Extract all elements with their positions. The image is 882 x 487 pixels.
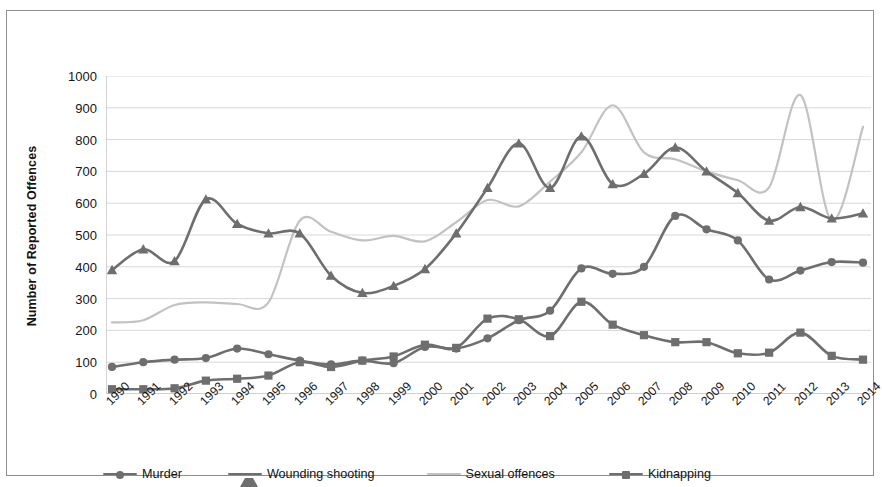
- data-point-marker: [702, 225, 710, 233]
- data-point-marker: [734, 349, 742, 357]
- y-axis-tick-label: 600: [47, 197, 97, 210]
- y-axis-tick-label: 400: [47, 261, 97, 274]
- data-point-marker: [264, 350, 272, 358]
- data-point-marker: [828, 352, 836, 360]
- data-point-marker: [233, 375, 241, 383]
- data-point-marker: [421, 341, 429, 349]
- series-line: [112, 95, 863, 323]
- y-axis-tick-label: 300: [47, 293, 97, 306]
- data-point-marker: [765, 275, 773, 283]
- series-sexual-offences: [112, 95, 863, 323]
- data-point-marker: [577, 298, 585, 306]
- data-point-marker: [202, 354, 210, 362]
- legend-marker-icon: [609, 467, 643, 481]
- data-point-marker: [796, 329, 804, 337]
- data-point-marker: [170, 356, 178, 364]
- data-point-marker: [671, 338, 679, 346]
- series-wounding-shooting: [107, 131, 868, 297]
- plot-area: [106, 76, 871, 394]
- data-point-marker: [327, 363, 335, 371]
- y-axis-tick-label: 1000: [47, 70, 97, 83]
- data-point-marker: [577, 264, 585, 272]
- series-line: [112, 214, 863, 367]
- data-point-marker: [796, 267, 804, 275]
- legend-label: Wounding shooting: [267, 467, 375, 481]
- y-axis-tick-label: 500: [47, 229, 97, 242]
- data-point-marker: [390, 352, 398, 360]
- legend-item-kidnapping[interactable]: Kidnapping: [609, 467, 711, 481]
- data-point-marker: [233, 344, 241, 352]
- data-point-marker: [640, 263, 648, 271]
- data-point-marker: [859, 356, 867, 364]
- data-point-marker: [108, 363, 116, 371]
- data-point-marker: [483, 334, 491, 342]
- data-point-marker: [202, 377, 210, 385]
- y-axis-title-text: Number of Reported Offences: [25, 146, 39, 327]
- data-point-marker: [264, 371, 272, 379]
- y-axis-tick-label: 200: [47, 324, 97, 337]
- y-axis-tick-label: 100: [47, 356, 97, 369]
- chart-legend: MurderWounding shootingSexual offencesKi…: [103, 463, 863, 485]
- y-axis-tick-label: 800: [47, 134, 97, 147]
- data-point-marker: [765, 349, 773, 357]
- legend-label: Sexual offences: [466, 467, 555, 481]
- legend-label: Kidnapping: [648, 467, 711, 481]
- data-point-marker: [640, 331, 648, 339]
- legend-item-murder[interactable]: Murder: [103, 467, 182, 481]
- legend-label: Murder: [142, 467, 182, 481]
- data-point-marker: [452, 344, 460, 352]
- data-point-marker: [139, 358, 147, 366]
- data-point-marker: [609, 270, 617, 278]
- legend-item-wounding-shooting[interactable]: Wounding shooting: [228, 467, 375, 481]
- data-point-marker: [828, 258, 836, 266]
- legend-marker-icon: [103, 467, 137, 481]
- chart-container: Number of Reported Offences 100090080070…: [6, 10, 874, 476]
- data-point-marker: [734, 236, 742, 244]
- y-axis-title: Number of Reported Offences: [21, 71, 43, 401]
- data-point-marker: [296, 358, 304, 366]
- legend-marker-icon: [228, 467, 262, 481]
- data-point-marker: [576, 131, 586, 140]
- data-point-marker: [546, 332, 554, 340]
- series-murder: [108, 212, 867, 371]
- data-point-marker: [546, 307, 554, 315]
- data-point-marker: [859, 259, 867, 267]
- series-kidnapping: [108, 298, 867, 394]
- series-line: [112, 136, 863, 293]
- line-chart-svg: [106, 76, 871, 394]
- data-point-marker: [358, 357, 366, 365]
- y-axis-tick-label: 700: [47, 165, 97, 178]
- legend-item-sexual-offences[interactable]: Sexual offences: [427, 467, 555, 481]
- data-point-marker: [671, 212, 679, 220]
- data-point-marker: [483, 315, 491, 323]
- legend-marker-icon: [427, 467, 461, 481]
- data-point-marker: [515, 315, 523, 323]
- y-axis-tick-label: 900: [47, 102, 97, 115]
- y-axis-tick-label: 0: [47, 388, 97, 401]
- data-point-marker: [609, 321, 617, 329]
- data-point-marker: [702, 338, 710, 346]
